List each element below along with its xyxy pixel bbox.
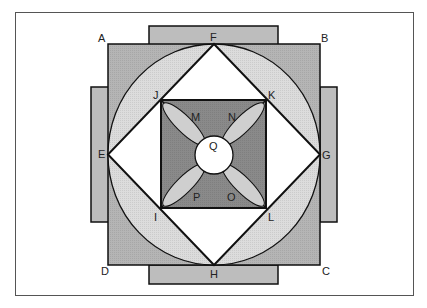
label-j: J <box>153 89 159 101</box>
label-b: B <box>321 32 328 44</box>
label-n: N <box>228 111 236 123</box>
label-g: G <box>322 149 331 161</box>
label-a: A <box>98 32 106 44</box>
label-i: I <box>154 211 157 223</box>
label-c: C <box>322 265 330 277</box>
label-k: K <box>268 89 276 101</box>
geometric-diagram: A B C D E F G H I J K L M N O P Q <box>0 0 427 308</box>
label-f: F <box>210 31 217 43</box>
label-l: L <box>268 211 274 223</box>
label-e: E <box>98 148 105 160</box>
label-d: D <box>101 265 109 277</box>
label-o: O <box>227 191 236 203</box>
label-q: Q <box>209 140 218 152</box>
label-p: P <box>193 191 200 203</box>
label-m: M <box>191 111 200 123</box>
label-h: H <box>210 268 218 280</box>
